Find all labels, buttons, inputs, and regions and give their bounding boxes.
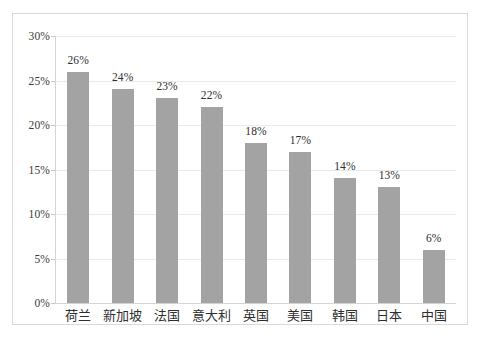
x-axis-category-label: 日本 xyxy=(367,305,411,324)
y-axis-tick-label: 20% xyxy=(29,119,50,131)
bar-slot: 13% xyxy=(367,36,411,303)
x-axis-category-label: 意大利 xyxy=(189,305,233,324)
bar[interactable] xyxy=(112,89,134,303)
bar-value-label: 6% xyxy=(426,232,442,244)
y-axis-tick-labels: 0%5%10%15%20%25%30% xyxy=(0,0,50,338)
bar-slot: 22% xyxy=(189,36,233,303)
x-axis-category-label: 法国 xyxy=(145,305,189,324)
bar-slot: 6% xyxy=(412,36,456,303)
bar-value-label: 26% xyxy=(68,54,89,66)
y-axis-tick-label: 25% xyxy=(29,75,50,87)
gridline xyxy=(56,303,456,304)
bar[interactable] xyxy=(423,250,445,303)
x-axis-category-label: 英国 xyxy=(234,305,278,324)
bar[interactable] xyxy=(245,143,267,303)
y-axis-tick-label: 30% xyxy=(29,30,50,42)
bar-value-label: 14% xyxy=(334,160,355,172)
bar[interactable] xyxy=(289,152,311,303)
x-axis-category-labels: 荷兰新加坡法国意大利英国美国韩国日本中国 xyxy=(56,305,456,325)
y-axis-tick-label: 5% xyxy=(34,253,50,265)
bar-value-label: 13% xyxy=(379,169,400,181)
bar-value-label: 23% xyxy=(156,80,177,92)
bar-slot: 18% xyxy=(234,36,278,303)
bar-value-label: 24% xyxy=(112,71,133,83)
bar-chart: 0%5%10%15%20%25%30% 26%24%23%22%18%17%14… xyxy=(0,0,481,338)
bar[interactable] xyxy=(334,178,356,303)
x-axis-category-label: 荷兰 xyxy=(56,305,100,324)
x-axis-category-label: 中国 xyxy=(412,305,456,324)
bar-value-label: 22% xyxy=(201,89,222,101)
x-axis-category-label: 新加坡 xyxy=(100,305,144,324)
plot-area: 26%24%23%22%18%17%14%13%6% xyxy=(56,36,456,303)
bar[interactable] xyxy=(67,72,89,303)
bar-slot: 23% xyxy=(145,36,189,303)
bar-slot: 26% xyxy=(56,36,100,303)
y-axis-tick-label: 10% xyxy=(29,208,50,220)
bar[interactable] xyxy=(378,187,400,303)
bar-value-label: 18% xyxy=(245,125,266,137)
bar-slot: 14% xyxy=(323,36,367,303)
bar-slot: 17% xyxy=(278,36,322,303)
x-axis-category-label: 美国 xyxy=(278,305,322,324)
bar[interactable] xyxy=(156,98,178,303)
x-axis-category-label: 韩国 xyxy=(323,305,367,324)
bar-value-label: 17% xyxy=(290,134,311,146)
y-axis-tick-label: 0% xyxy=(34,297,50,309)
bar[interactable] xyxy=(201,107,223,303)
y-axis-tick-label: 15% xyxy=(29,164,50,176)
bar-slot: 24% xyxy=(100,36,144,303)
